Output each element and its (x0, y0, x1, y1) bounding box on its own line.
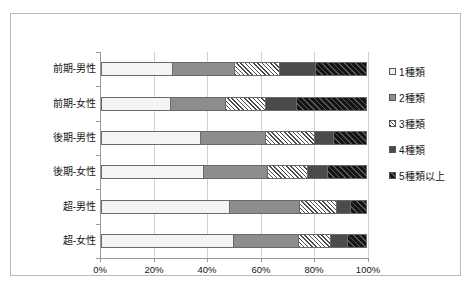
bar-segment-5種類以上[interactable] (316, 62, 367, 76)
bar-segment-5種類以上[interactable] (348, 234, 367, 248)
bar-segment-3種類[interactable] (300, 200, 337, 214)
y-axis-label: 前期-女性 (18, 98, 96, 110)
bar-segment-3種類[interactable] (266, 131, 315, 145)
y-axis-tick (96, 189, 100, 190)
x-axis-tick (368, 258, 369, 262)
bar-row[interactable] (101, 234, 368, 248)
bar-segment-4種類[interactable] (308, 165, 328, 179)
legend-item-label: 4種類 (399, 142, 425, 157)
bar-row[interactable] (101, 165, 368, 179)
gray-square-key (389, 94, 396, 101)
bar-row[interactable] (101, 62, 368, 76)
bar-segment-1種類[interactable] (101, 97, 171, 111)
legend-item-label: 3種類 (399, 116, 425, 131)
bar-segment-3種類[interactable] (235, 62, 280, 76)
y-axis-label: 後期-女性 (18, 166, 96, 178)
x-axis-tick (261, 258, 262, 262)
stacked-bar-chart: 前期-男性前期-女性後期-男性後期-女性超-男性超-女性 0%20%40%60%… (0, 0, 471, 289)
legend-item[interactable]: 4種類 (389, 136, 467, 162)
bar-segment-2種類[interactable] (230, 200, 300, 214)
y-axis-tick (96, 86, 100, 87)
black-square-key (389, 172, 396, 179)
y-axis-line (100, 52, 101, 258)
y-axis-label: 超-女性 (18, 235, 96, 247)
bar-row[interactable] (101, 200, 368, 214)
x-axis-tick (314, 258, 315, 262)
legend-item[interactable]: 2種類 (389, 84, 467, 110)
y-axis-tick (96, 258, 100, 259)
bar-segment-5種類以上[interactable] (351, 200, 367, 214)
chart-legend: 1種類2種類3種類4種類5種類以上 (389, 58, 467, 188)
bar-segment-4種類[interactable] (337, 200, 351, 214)
y-axis-label: 超-男性 (18, 201, 96, 213)
y-axis-tick (96, 52, 100, 53)
legend-item-label: 1種類 (399, 64, 425, 79)
bar-segment-5種類以上[interactable] (328, 165, 367, 179)
y-axis-tick (96, 121, 100, 122)
bar-segment-1種類[interactable] (101, 234, 234, 248)
x-axis-label: 0% (80, 264, 120, 275)
x-axis-label: 20% (134, 264, 174, 275)
x-axis-label: 100% (348, 264, 388, 275)
hatched-square-key (389, 120, 396, 127)
bar-segment-1種類[interactable] (101, 200, 230, 214)
bar-segment-2種類[interactable] (201, 131, 266, 145)
bar-segment-2種類[interactable] (204, 165, 268, 179)
x-axis-tick (100, 258, 101, 262)
bar-segment-2種類[interactable] (234, 234, 299, 248)
legend-item[interactable]: 3種類 (389, 110, 467, 136)
bar-segment-3種類[interactable] (299, 234, 331, 248)
bar-segment-4種類[interactable] (315, 131, 334, 145)
y-axis-label: 後期-男性 (18, 132, 96, 144)
y-axis-tick (96, 224, 100, 225)
y-axis-labels: 前期-男性前期-女性後期-男性後期-女性超-男性超-女性 (16, 52, 96, 258)
legend-item-label: 5種類以上 (399, 168, 445, 183)
bar-segment-3種類[interactable] (226, 97, 266, 111)
x-axis-tick (207, 258, 208, 262)
x-axis-tick (154, 258, 155, 262)
bar-segment-4種類[interactable] (280, 62, 316, 76)
gridline (207, 52, 208, 258)
empty-square-key (389, 68, 396, 75)
plot-area (100, 52, 368, 258)
gridline (368, 52, 369, 258)
dark-gray-square-key (389, 146, 396, 153)
chart-frame: 前期-男性前期-女性後期-男性後期-女性超-男性超-女性 0%20%40%60%… (10, 13, 461, 276)
gridline (154, 52, 155, 258)
gridline (261, 52, 262, 258)
legend-item[interactable]: 1種類 (389, 58, 467, 84)
legend-item[interactable]: 5種類以上 (389, 162, 467, 188)
y-axis-label: 前期-男性 (18, 63, 96, 75)
bar-segment-1種類[interactable] (101, 62, 173, 76)
bar-row[interactable] (101, 131, 368, 145)
bar-segment-4種類[interactable] (266, 97, 297, 111)
bar-segment-2種類[interactable] (171, 97, 226, 111)
x-axis-label: 60% (241, 264, 281, 275)
bar-segment-4種類[interactable] (331, 234, 348, 248)
bar-segment-1種類[interactable] (101, 165, 204, 179)
y-axis-tick (96, 155, 100, 156)
bar-segment-3種類[interactable] (268, 165, 308, 179)
x-axis-line (100, 258, 369, 259)
legend-item-label: 2種類 (399, 90, 425, 105)
bar-segment-2種類[interactable] (173, 62, 235, 76)
bar-segment-1種類[interactable] (101, 131, 201, 145)
x-axis-label: 80% (294, 264, 334, 275)
bar-row[interactable] (101, 97, 368, 111)
x-axis-label: 40% (187, 264, 227, 275)
x-axis-labels: 0%20%40%60%80%100% (100, 264, 368, 278)
gridline (314, 52, 315, 258)
bar-segment-5種類以上[interactable] (297, 97, 367, 111)
bar-segment-5種類以上[interactable] (334, 131, 367, 145)
